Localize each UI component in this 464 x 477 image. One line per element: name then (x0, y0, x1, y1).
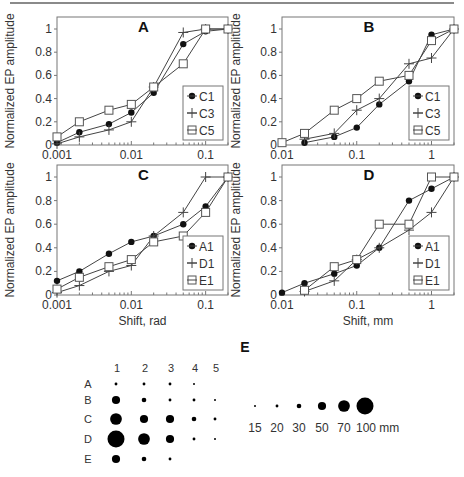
panel-title: C (138, 166, 149, 183)
legend-label: C3 (199, 107, 215, 121)
scale-label: 100 mm (356, 421, 399, 435)
y-tick-label: 0.8 (260, 194, 277, 208)
data-point-square (278, 139, 286, 147)
scale-dot (297, 404, 302, 409)
grid-column-label: 1 (114, 362, 120, 374)
scale-label: 70 (337, 421, 351, 435)
grid-row-label: E (84, 453, 91, 465)
data-point-square (353, 256, 361, 264)
y-axis-label: Normalized EP amplitude (3, 13, 17, 149)
data-point-square (150, 83, 158, 91)
grid-dot (214, 438, 216, 440)
panel-a: 0.0010.010.100.20.40.60.81Normalized EP … (3, 13, 233, 162)
data-point-plus (178, 207, 188, 217)
grid-dot (169, 399, 172, 402)
panel-title: A (138, 18, 149, 35)
grid-dot (169, 458, 172, 461)
panel-title: E (240, 339, 249, 355)
legend-label: C5 (425, 124, 441, 138)
data-point-dot (301, 280, 307, 286)
grid-dot (143, 383, 146, 386)
grid-column-label: 2 (142, 362, 148, 374)
scale-dot (357, 398, 374, 415)
scale-dot (318, 402, 326, 410)
y-tick-label: 0.4 (260, 92, 277, 106)
y-tick-label: 0.2 (260, 264, 277, 278)
data-point-dot (180, 221, 186, 227)
x-tick-label: 0.01 (120, 298, 144, 312)
data-point-square (450, 173, 458, 181)
data-point-square (405, 220, 413, 228)
data-point-plus (178, 27, 188, 37)
legend-label: C5 (199, 124, 215, 138)
y-axis-label: Normalized EP amplitude (229, 162, 243, 298)
data-point-dot (180, 41, 186, 47)
panel-title: B (364, 18, 375, 35)
data-point-dot (428, 186, 434, 192)
y-tick-label: 0.2 (35, 264, 52, 278)
y-tick-label: 0.6 (260, 68, 277, 82)
grid-dot (169, 383, 172, 386)
y-tick-label: 0 (45, 288, 52, 302)
grid-dot (214, 399, 216, 401)
grid-dot (166, 415, 174, 423)
data-point-plus (126, 117, 136, 127)
data-point-square (179, 60, 187, 68)
grid-dot (192, 417, 197, 422)
grid-dot (166, 435, 174, 443)
y-tick-label: 0.2 (260, 115, 277, 129)
data-point-square (75, 118, 83, 126)
y-tick-label: 0.6 (35, 68, 52, 82)
data-point-square (375, 220, 383, 228)
y-tick-label: 0.8 (35, 194, 52, 208)
data-point-plus (426, 53, 436, 63)
x-tick-label: 1 (428, 298, 435, 312)
data-point-square (75, 273, 83, 281)
data-point-plus (426, 207, 436, 217)
data-point-plus (201, 172, 211, 182)
data-point-square (427, 37, 435, 45)
panel-b: 0.010.1100.20.40.60.81Normalized EP ampl… (229, 13, 459, 162)
grid-column-label: 3 (168, 362, 174, 374)
legend-label: E1 (199, 274, 214, 288)
data-point-square (127, 256, 135, 264)
grid-dot (110, 413, 122, 425)
panel-title: D (364, 166, 375, 183)
y-tick-label: 1 (270, 22, 277, 36)
legend-label: D1 (425, 257, 441, 271)
scale-label: 50 (315, 421, 329, 435)
grid-dot (140, 415, 148, 423)
grid-row-label: C (84, 413, 92, 425)
y-tick-label: 0.8 (260, 45, 277, 59)
y-tick-label: 0.4 (35, 92, 52, 106)
data-point-square (427, 173, 435, 181)
x-tick-label: 0.1 (197, 148, 214, 162)
data-point-dot (128, 239, 134, 245)
y-tick-label: 0.2 (35, 115, 52, 129)
scale-label: 15 (248, 421, 262, 435)
grid-dot (112, 396, 120, 404)
grid-dot (142, 457, 147, 462)
panel-e: E12345ABCDE1520305070100 mm (84, 339, 399, 465)
y-tick-label: 1 (45, 170, 52, 184)
y-tick-label: 1 (270, 170, 277, 184)
scale-label: 20 (270, 421, 284, 435)
data-point-dot (128, 109, 134, 115)
x-tick-label: 0.1 (348, 298, 365, 312)
grid-dot (115, 383, 118, 386)
data-point-square (127, 100, 135, 108)
legend-label: D1 (199, 257, 215, 271)
scale-label: 30 (292, 421, 306, 435)
data-point-square (105, 106, 113, 114)
grid-row-label: B (84, 394, 91, 406)
grid-dot (138, 433, 150, 445)
legend-label: C3 (425, 107, 441, 121)
y-tick-label: 0.6 (35, 217, 52, 231)
y-tick-label: 0 (270, 288, 277, 302)
grid-dot (193, 399, 196, 402)
data-point-dot (106, 251, 112, 257)
data-point-square (330, 106, 338, 114)
data-point-square (330, 263, 338, 271)
x-axis-label: Shift, rad (118, 314, 166, 328)
data-point-square (53, 133, 61, 141)
